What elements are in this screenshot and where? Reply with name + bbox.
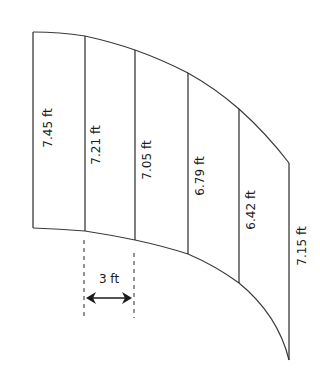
ordinate-label-3: 7.05 ft [140,140,154,179]
ordinate-label-4: 6.79 ft [193,156,207,195]
bottom-curve [33,228,289,360]
ordinate-label-1: 7.45 ft [41,108,55,147]
ordinate-label-5: 6.42 ft [244,190,258,229]
diagram-canvas [0,0,320,377]
spacing-label: 3 ft [99,272,119,286]
ordinate-label-2: 7.21 ft [89,125,103,164]
top-curve [33,32,289,163]
ordinate-label-6: 7.15 ft [295,226,309,265]
